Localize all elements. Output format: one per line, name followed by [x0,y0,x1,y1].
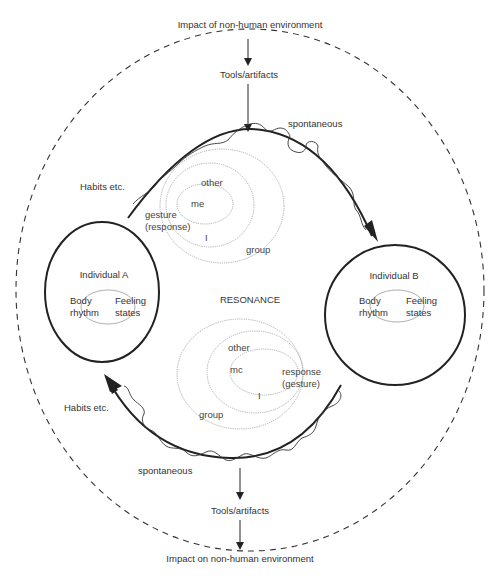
bottom-ring-i-label: I [258,390,261,401]
bottom-spontaneous-wave [124,386,341,461]
top-ring-other-label: other [201,177,223,188]
bottom-arc-arrowhead [104,374,122,394]
top-habits-label: Habits etc. [80,181,125,192]
top-impact-arrow [244,39,252,66]
top-tools-label: Tools/artifacts [220,69,278,80]
resonance-diagram: Impact of non-human environment Tools/ar… [0,0,501,584]
top-ring-group-label: group [246,244,270,255]
top-ring-me-label: me [191,198,204,209]
individual-b-feeling-label: Feeling [406,295,437,306]
bottom-spontaneous-label: spontaneous [138,465,193,476]
individual-b-circle [325,245,465,385]
environment-boundary [16,29,484,551]
individual-a-feeling-label: Feeling [115,295,146,306]
bottom-ring-other-label: other [228,342,250,353]
individual-b-states-label: states [406,307,432,318]
bottom-ring-me-label: mc [230,364,243,375]
individual-b-rhythm-label: rhythm [359,307,388,318]
bottom-interaction-arc [108,380,341,458]
bottom-habits-label: Habits etc. [64,402,109,413]
top-spontaneous-label: spontaneous [288,118,343,129]
top-ring-response-label: (response) [145,221,190,232]
top-ring-me [177,184,233,224]
top-ring-gesture-label: gesture [145,209,177,220]
bottom-impact-arrow [236,520,244,550]
individual-a-states-label: states [115,307,141,318]
bottom-tools-arrow [236,468,244,500]
top-ring-i-label: I [205,232,208,243]
bottom-ring-group-label: group [199,409,223,420]
resonance-label: RESONANCE [220,294,280,305]
bottom-ring-response-label: response [282,366,321,377]
individual-b-title: Individual B [369,270,418,281]
top-ring-other [166,163,254,247]
bottom-ring-gesture-label: (gesture) [282,378,320,389]
individual-a-body-label: Body [70,295,92,306]
top-impact-label: Impact of non-human environment [178,19,323,30]
bottom-impact-label: Impact on non-human environment [166,553,314,564]
bottom-tools-label: Tools/artifacts [211,505,269,516]
individual-b-body-label: Body [359,295,381,306]
individual-a-rhythm-label: rhythm [70,307,99,318]
individual-a-circle [45,222,159,362]
individual-a-title: Individual A [80,269,129,280]
